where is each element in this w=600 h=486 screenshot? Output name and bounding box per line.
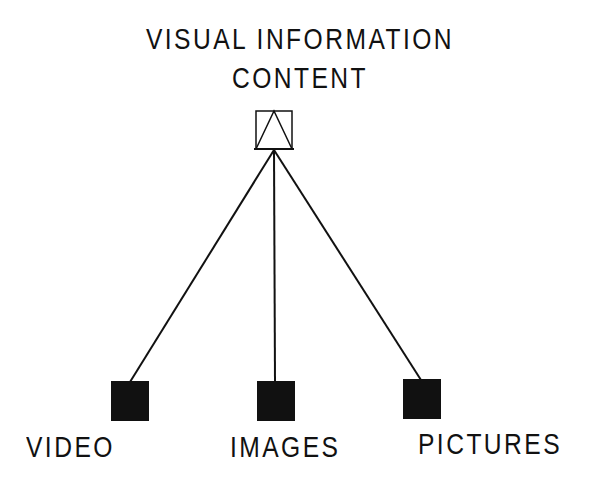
filled-square-icon-video xyxy=(111,381,149,421)
filled-square-icon-pictures xyxy=(403,379,441,419)
connector-video xyxy=(130,150,274,382)
hierarchy-diagram: VISUAL INFORMATION CONTENT VIDEO IMAGES … xyxy=(0,0,600,486)
child-label-video: VIDEO xyxy=(26,432,115,462)
diagram-graphics xyxy=(0,0,600,486)
square-with-triangle-icon xyxy=(254,111,294,149)
filled-square-icon-images xyxy=(257,381,295,421)
child-label-images: IMAGES xyxy=(230,432,340,462)
connectors xyxy=(130,150,421,382)
child-label-pictures: PICTURES xyxy=(418,429,562,459)
connector-images xyxy=(274,150,275,382)
connector-pictures xyxy=(274,150,421,380)
